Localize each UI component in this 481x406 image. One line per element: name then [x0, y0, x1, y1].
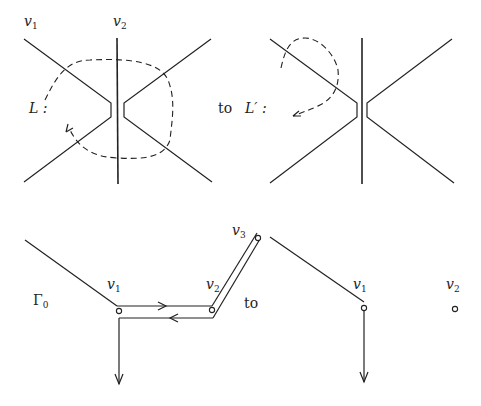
label-v2: v2 — [113, 13, 127, 31]
loop-L-prime — [281, 38, 338, 116]
label-v1: v1 — [24, 13, 38, 31]
panel-top-left: v1 v2 L : — [24, 13, 212, 184]
edge-right-branch — [367, 39, 454, 183]
panel-top-right: L′ : — [244, 38, 454, 184]
loop-L-arrow-icon — [66, 124, 73, 132]
panel-bottom-left: Γ0 v1 v2 v3 — [25, 222, 261, 384]
label-v1: v1 — [107, 276, 121, 294]
edge-left-branch — [270, 39, 357, 183]
label-gamma0: Γ0 — [33, 292, 49, 310]
node-v2 — [209, 307, 214, 312]
edge-incoming-v1 — [270, 237, 364, 302]
connector-to-bottom: to — [244, 295, 258, 311]
edge-right-branch — [124, 39, 212, 182]
loop-L — [45, 60, 173, 159]
node-v2 — [452, 306, 457, 311]
label-loop-L-prime: L′ : — [244, 100, 267, 116]
diagram-canvas: v1 v2 L : to L′ : Γ0 v1 v2 — [0, 0, 481, 406]
panel-bottom-right: v1 v2 — [270, 237, 460, 382]
label-v2: v2 — [206, 276, 220, 294]
node-v1 — [361, 305, 366, 310]
label-v2: v2 — [446, 276, 460, 294]
connector-to-top: to — [218, 100, 232, 116]
label-v3: v3 — [232, 222, 246, 240]
node-v1 — [116, 308, 121, 313]
node-v3 — [255, 235, 260, 240]
label-v1: v1 — [353, 276, 367, 294]
label-loop-L: L : — [28, 100, 47, 116]
